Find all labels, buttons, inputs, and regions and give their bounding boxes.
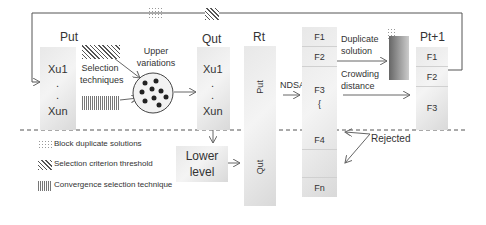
- duplicate-bar: [389, 36, 409, 80]
- next-pop-block: F1 F2 F3: [416, 47, 448, 130]
- legend-label: Selection criterion threshold: [54, 159, 153, 168]
- front-f3: F3: [302, 85, 337, 99]
- rt-upper-label: Put: [255, 77, 265, 97]
- put-title: Put: [60, 30, 78, 44]
- put-block: Xu1 . . Xun: [40, 47, 76, 130]
- put-item: Xu1: [48, 63, 68, 75]
- next-f3: F3: [416, 87, 448, 130]
- rt-title: Rt: [253, 30, 265, 44]
- put-item: .: [56, 89, 59, 101]
- legend-dots-icon: [38, 140, 52, 150]
- rejected-label: Rejected: [371, 133, 410, 144]
- qut-item: .: [211, 89, 214, 101]
- front-f2: F2: [302, 47, 337, 67]
- lower-level-label: Lower level: [178, 148, 226, 180]
- front-f1: F1: [302, 27, 337, 47]
- rt-lower-label: Qut: [255, 157, 265, 177]
- front-f4: F4: [302, 130, 337, 150]
- qut-title: Qut: [202, 32, 221, 46]
- front-fn: Fn: [302, 177, 337, 197]
- threshold-chip: [205, 8, 219, 20]
- legend-vertical-icon: [38, 181, 52, 191]
- qut-item: Xu1: [203, 63, 223, 75]
- put-item: Xun: [48, 105, 68, 117]
- lower-level-box: Lower level: [176, 146, 228, 182]
- fronts-column: F1 F2 F3 { F4 Fn: [302, 27, 337, 197]
- rt-block: Put Qut: [244, 46, 276, 206]
- front-brace: {: [302, 99, 337, 113]
- legend-label: Convergence selection technique: [54, 180, 172, 189]
- convergence-chip: [148, 7, 162, 19]
- qut-block: Xu1 . . Xun: [197, 47, 230, 130]
- crowding-label: Crowding distance: [341, 68, 391, 92]
- next-f2: F2: [416, 67, 448, 87]
- duplicate-label: Duplicate solution: [341, 33, 391, 57]
- put-item: .: [56, 77, 59, 89]
- population-circle: [132, 72, 174, 114]
- convergence-pattern: [82, 96, 120, 110]
- next-pop-title: Pt+1: [420, 30, 445, 44]
- upper-variations-label: Upper variations: [136, 45, 176, 69]
- qut-item: .: [211, 77, 214, 89]
- next-f1: F1: [416, 47, 448, 67]
- selection-label: Selection techniques: [80, 62, 120, 86]
- selection-threshold-pattern: [82, 45, 120, 59]
- legend-label: Block duplicate solutions: [54, 139, 142, 148]
- legend-diagonal-icon: [38, 160, 52, 170]
- qut-item: Xun: [203, 105, 223, 117]
